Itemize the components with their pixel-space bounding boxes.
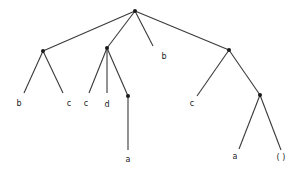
tree-node [133, 9, 137, 13]
leaf-label: a [126, 155, 131, 164]
tree-edge [197, 50, 229, 96]
leaf-label: c [190, 99, 194, 108]
leaf-label: d [104, 100, 109, 109]
tree-nodes [41, 9, 262, 98]
tree-edge [135, 11, 229, 50]
leaf-label: b [16, 99, 21, 108]
tree-edge [229, 50, 260, 95]
tree-node [258, 93, 262, 97]
tree-edge [43, 51, 63, 93]
tree-edge [107, 48, 128, 96]
tree-edge [239, 95, 260, 149]
leaf-label: a [233, 152, 238, 161]
tree-node [126, 94, 130, 98]
tree-node [105, 46, 109, 50]
leaf-label: c [67, 99, 71, 108]
tree-edges [24, 11, 281, 150]
tree-node [227, 48, 231, 52]
tree-edge [135, 11, 153, 46]
tree-edge [89, 48, 107, 93]
tree-diagram: bccdabca( ) [0, 0, 301, 171]
tree-node [41, 49, 45, 53]
tree-edge [24, 51, 43, 93]
leaf-label: ( ) [277, 153, 286, 162]
leaf-label: b [161, 52, 166, 61]
leaf-label: c [84, 99, 88, 108]
tree-edge [43, 11, 135, 51]
tree-edge [260, 95, 281, 150]
leaf-labels: bccdabca( ) [16, 52, 285, 164]
